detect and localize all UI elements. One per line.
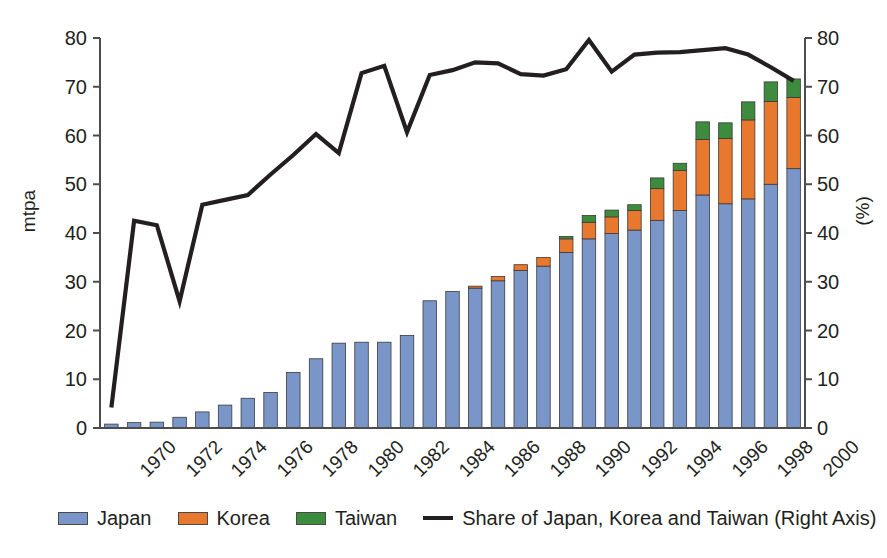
bar-segment-korea [582,222,596,239]
bar-segment-taiwan [650,178,664,189]
legend-label: Japan [97,508,152,528]
legend-label: Share of Japan, Korea and Taiwan (Right … [462,508,876,528]
legend-label: Taiwan [335,508,397,528]
bar-segment-japan [787,169,801,428]
y-axis-left-tick-label: 70 [41,77,87,97]
legend-color-swatch [58,512,88,525]
bar-stack [241,398,255,428]
bar-stack [332,343,346,428]
bar-segment-japan [446,292,460,429]
bar-stack [491,276,505,428]
bar-segment-japan [332,343,346,428]
y-axis-left-tick-label: 40 [41,223,87,243]
bar-segment-taiwan [741,102,755,120]
bar-segment-korea [491,276,505,280]
bar-segment-japan [264,392,278,428]
bar-segment-japan [378,342,392,428]
bar-segment-japan [719,204,733,428]
bar-stack [650,178,664,428]
legend-item[interactable]: Taiwan [296,508,397,528]
bar-stack [696,122,710,428]
legend-color-swatch [296,512,326,525]
bar-segment-japan [309,359,323,428]
bar-stack [378,342,392,428]
bar-segment-japan [537,266,551,428]
bar-stack [514,265,528,428]
plot-area [0,0,887,558]
y-axis-left-tick-label: 0 [41,418,87,438]
bar-segment-taiwan [605,210,619,217]
y-axis-left-tick-label: 80 [41,28,87,48]
bars-group [105,79,801,428]
y-axis-right-tick-label: 0 [817,418,863,438]
bar-stack [400,335,414,428]
bar-segment-korea [650,189,664,221]
bar-stack [559,236,573,428]
bar-segment-japan [650,220,664,428]
bar-segment-japan [468,288,482,428]
bar-segment-korea [764,101,778,184]
bar-segment-korea [741,120,755,199]
bar-segment-japan [218,405,232,428]
bar-stack [764,82,778,428]
bar-segment-japan [628,230,642,428]
bar-stack [741,102,755,428]
bar-stack [264,392,278,428]
bar-stack [309,359,323,428]
bar-segment-japan [173,417,187,428]
y-axis-left-tick-label: 30 [41,272,87,292]
y-axis-right-tick-label: 80 [817,28,863,48]
y-axis-right-tick-label: 50 [817,174,863,194]
bar-stack [218,405,232,428]
y-axis-left-title: mtpa [18,176,40,246]
bar-stack [582,215,596,428]
bar-segment-taiwan [787,79,801,98]
bar-stack [446,292,460,429]
bar-segment-korea [514,265,528,271]
bar-stack [355,342,369,428]
bar-segment-japan [287,372,301,428]
y-axis-right-tick-label: 60 [817,126,863,146]
bar-segment-korea [787,97,801,168]
chart-legend: JapanKoreaTaiwanShare of Japan, Korea an… [58,505,887,531]
bar-stack [537,257,551,428]
y-axis-right-tick-label: 10 [817,369,863,389]
bar-segment-japan [741,199,755,428]
y-axis-right-tick-label: 70 [817,77,863,97]
bar-segment-japan [400,335,414,428]
bar-stack [287,372,301,428]
bar-stack [423,301,437,428]
bar-stack [719,123,733,428]
bar-segment-korea [719,138,733,203]
bar-stack [605,210,619,428]
chart-figure: mtpa (%) 0102030405060708001020304050607… [0,0,887,558]
bar-segment-korea [673,171,687,211]
bar-segment-japan [491,281,505,428]
bar-segment-korea [537,257,551,266]
bar-segment-japan [605,233,619,428]
bar-segment-japan [514,271,528,428]
bar-segment-korea [468,286,482,288]
bar-segment-taiwan [628,205,642,211]
bar-segment-japan [241,398,255,428]
bar-segment-korea [559,239,573,253]
bar-segment-japan [764,184,778,428]
y-axis-left-tick-label: 60 [41,126,87,146]
bar-segment-japan [196,412,210,428]
legend-item[interactable]: Japan [58,508,152,528]
y-axis-left-tick-label: 20 [41,321,87,341]
legend-item[interactable]: Korea [178,508,270,528]
y-axis-right-tick-label: 20 [817,321,863,341]
legend-label: Korea [217,508,270,528]
bar-stack [787,79,801,428]
bar-segment-taiwan [764,82,778,102]
bar-segment-taiwan [719,123,733,139]
bar-segment-korea [605,217,619,234]
legend-item[interactable]: Share of Japan, Korea and Taiwan (Right … [423,508,876,528]
bar-segment-taiwan [559,236,573,238]
bar-segment-korea [696,139,710,195]
bar-stack [628,205,642,428]
y-axis-right-tick-label: 30 [817,272,863,292]
bar-segment-japan [355,342,369,428]
bar-segment-taiwan [673,163,687,170]
